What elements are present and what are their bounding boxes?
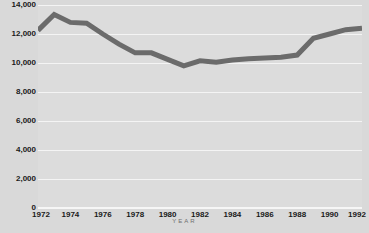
y-axis-labels: 02,0004,0006,0008,00010,00012,00014,000 (0, 0, 36, 233)
y-tick-label-2000: 2,000 (0, 175, 36, 183)
x-axis-title: YEAR (0, 218, 369, 224)
y-tick-label-6000: 6,000 (0, 117, 36, 125)
data-series-line (38, 5, 362, 208)
y-tick-label-10000: 10,000 (0, 59, 36, 67)
y-tick-label-12000: 12,000 (0, 30, 36, 38)
y-tick-label-4000: 4,000 (0, 146, 36, 154)
y-tick-label-14000: 14,000 (0, 1, 36, 9)
line-chart: 02,0004,0006,0008,00010,00012,00014,000 … (0, 0, 369, 233)
y-tick-label-8000: 8,000 (0, 88, 36, 96)
